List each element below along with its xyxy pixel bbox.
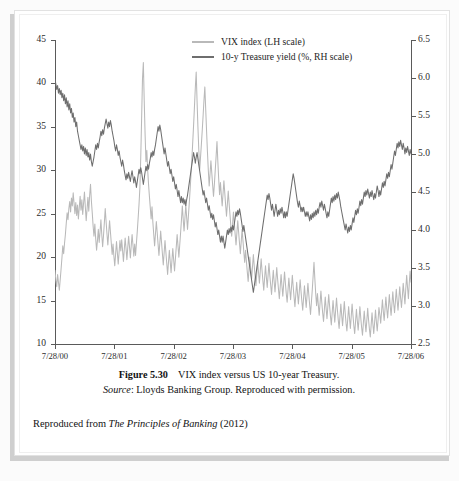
y-tick-label-left: 40 xyxy=(37,78,47,88)
x-tick xyxy=(174,345,175,349)
x-tick-label: 7/28/05 xyxy=(326,351,378,361)
y-tick-right xyxy=(412,154,416,155)
y-tick-label-right: 6.0 xyxy=(418,73,430,83)
x-tick-label: 7/28/01 xyxy=(88,351,140,361)
y-tick-right xyxy=(412,40,416,41)
legend-item: VIX index (LH scale) xyxy=(192,34,352,49)
y-tick-label-left: 15 xyxy=(37,296,47,306)
source-label: Source xyxy=(103,384,131,395)
y-tick-right xyxy=(412,344,416,345)
series-line xyxy=(55,80,411,293)
figure-source: Source: Lloyds Banking Group. Reproduced… xyxy=(24,383,434,398)
figure-title: VIX index versus US 10-year Treasury. xyxy=(170,369,339,380)
chart-legend: VIX index (LH scale)10-y Treasure yield … xyxy=(192,34,352,64)
attribution-book-title: The Principles of Banking xyxy=(109,418,218,429)
figure-title-text: VIX index versus US 10-year Treasury. xyxy=(178,369,339,380)
y-tick-label-left: 30 xyxy=(37,165,47,175)
y-tick-label-left: 25 xyxy=(37,209,47,219)
x-tick-label: 7/28/06 xyxy=(385,351,437,361)
legend-label: VIX index (LH scale) xyxy=(221,36,305,47)
y-tick-label-left: 20 xyxy=(37,252,47,262)
x-tick xyxy=(411,345,412,349)
y-tick-label-right: 3.5 xyxy=(418,263,430,273)
figure-number: Figure 5.30 xyxy=(119,369,168,380)
source-text: : Lloyds Banking Group. Reproduced with … xyxy=(131,384,355,395)
y-tick-label-left: 35 xyxy=(37,122,47,132)
series-line xyxy=(55,63,411,337)
y-tick-right xyxy=(412,78,416,79)
y-tick-right xyxy=(412,268,416,269)
y-tick-label-right: 5.5 xyxy=(418,111,430,121)
attribution-prefix: Reproduced from xyxy=(33,418,109,429)
y-tick-label-right: 5.0 xyxy=(418,149,430,159)
x-tick xyxy=(114,345,115,349)
x-tick-label: 7/28/02 xyxy=(148,351,200,361)
figure-caption: Figure 5.30 VIX index versus US 10-year … xyxy=(24,368,434,398)
y-tick-label-right: 6.5 xyxy=(418,35,430,45)
y-tick-label-right: 3.0 xyxy=(418,301,430,311)
y-tick-label-right: 2.5 xyxy=(418,339,430,349)
legend-swatch xyxy=(192,41,214,43)
x-tick-label: 7/28/04 xyxy=(266,351,318,361)
x-tick xyxy=(352,345,353,349)
series-svg xyxy=(55,40,411,344)
attribution-suffix: (2012) xyxy=(217,418,247,429)
legend-label: 10-y Treasure yield (%, RH scale) xyxy=(221,51,352,62)
y-tick-right xyxy=(412,230,416,231)
figure-page: 1015202530354045 2.53.03.54.04.55.05.56.… xyxy=(0,0,459,481)
reproduction-attribution: Reproduced from The Principles of Bankin… xyxy=(33,418,248,429)
y-tick-right xyxy=(412,306,416,307)
x-tick xyxy=(292,345,293,349)
y-tick-right xyxy=(412,192,416,193)
y-tick-label-left: 45 xyxy=(37,35,47,45)
y-tick-label-right: 4.0 xyxy=(418,225,430,235)
plot-area xyxy=(55,40,411,344)
x-tick-label: 7/28/03 xyxy=(207,351,259,361)
x-tick xyxy=(55,345,56,349)
y-tick-label-left: 10 xyxy=(37,339,47,349)
y-tick-label-right: 4.5 xyxy=(418,187,430,197)
legend-item: 10-y Treasure yield (%, RH scale) xyxy=(192,49,352,64)
chart-container: 1015202530354045 2.53.03.54.04.55.05.56.… xyxy=(24,18,442,363)
x-tick xyxy=(233,345,234,349)
legend-swatch xyxy=(192,56,214,58)
y-tick-right xyxy=(412,116,416,117)
x-tick-label: 7/28/00 xyxy=(29,351,81,361)
